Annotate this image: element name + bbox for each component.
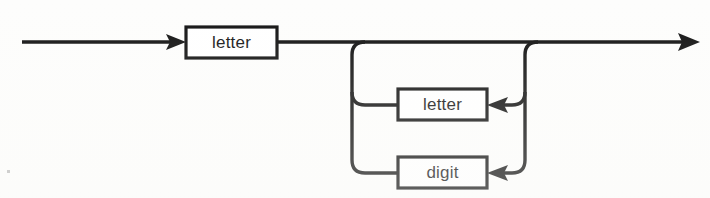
terminal-box-letter-first-label: letter xyxy=(212,33,251,52)
terminal-box-letter-repeat-label: letter xyxy=(423,95,462,114)
terminal-box-digit-repeat-label: digit xyxy=(426,163,458,182)
scan-speck-artifact xyxy=(7,170,10,173)
railroad-diagram: letter letter digit xyxy=(0,0,710,198)
loop-left-branch-letter xyxy=(352,92,398,105)
syntax-diagram-page: letter letter digit xyxy=(0,0,710,198)
loop-left-rail xyxy=(352,42,398,173)
